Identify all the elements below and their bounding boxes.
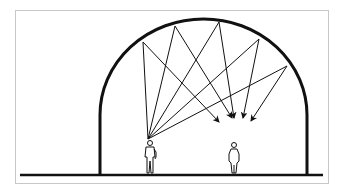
ray-segment <box>143 42 219 122</box>
ray-segment <box>219 22 234 118</box>
ray-segment <box>175 26 232 118</box>
listener-figure <box>229 143 240 174</box>
dome-outline <box>100 19 307 175</box>
dome-arc <box>100 19 307 175</box>
ray-segment <box>148 26 175 139</box>
ray-segment <box>143 42 148 139</box>
speaker-figure <box>145 141 156 174</box>
acoustic-dome-diagram <box>0 0 345 194</box>
ray-segment <box>251 66 287 121</box>
